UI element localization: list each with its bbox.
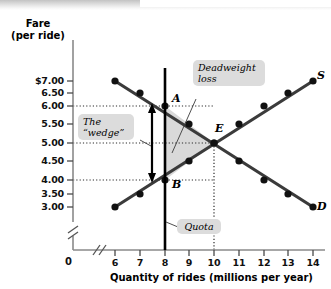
wedge-line1: The [83, 116, 129, 127]
y-tick-label-5-00: 5.00 [14, 137, 64, 148]
x-tick-label-12: 12 [254, 257, 274, 268]
y-tick-label-3-00: 3.00 [14, 201, 64, 212]
x-tick-label-8: 8 [155, 257, 175, 268]
supply-curve-label: S [317, 69, 325, 82]
x-axis-ticks [115, 250, 313, 256]
y-tick-label-6-00: 6.00 [14, 100, 64, 111]
x-tick-label-13: 13 [278, 257, 298, 268]
y-tick-label-7-00: $7.00 [14, 75, 64, 86]
x-tick-label-10: 10 [204, 257, 224, 268]
wedge-callout: The “wedge” [78, 114, 134, 140]
origin-label: 0 [65, 256, 72, 267]
y-axis-title: Fare (per ride) [8, 18, 68, 42]
x-tick-label-11: 11 [229, 257, 249, 268]
y-axis-break-mark-1 [68, 226, 78, 233]
y-axis-title-line1: Fare [8, 18, 68, 30]
point-label-b: B [172, 178, 181, 191]
wedge-line2: “wedge” [83, 127, 129, 138]
deadweight-loss-line1: Deadweight [198, 62, 260, 73]
y-axis-ticks [67, 81, 73, 207]
quota-callout: Quota [177, 219, 221, 234]
x-tick-label-9: 9 [179, 257, 199, 268]
deadweight-loss-callout: Deadweight loss [193, 60, 265, 86]
point-label-e: E [215, 122, 223, 135]
quota-deadweight-loss-chart: Fare (per ride) $7.00 6.50 6.00 5.50 5.0… [0, 0, 331, 289]
y-tick-label-5-50: 5.50 [14, 118, 64, 129]
x-axis-title: Quantity of rides (millions per year) [110, 272, 313, 284]
point-label-a: A [172, 92, 181, 105]
demand-curve-label: D [317, 200, 327, 213]
deadweight-loss-line2: loss [198, 73, 260, 84]
y-tick-label-4-50: 4.50 [14, 155, 64, 166]
y-tick-label-4-00: 4.00 [14, 174, 64, 185]
x-tick-label-6: 6 [105, 257, 125, 268]
y-tick-label-3-50: 3.50 [14, 188, 64, 199]
y-tick-label-6-50: 6.50 [14, 87, 64, 98]
x-tick-label-7: 7 [130, 257, 150, 268]
y-axis-title-line2: (per ride) [8, 30, 68, 42]
x-tick-label-14: 14 [303, 257, 323, 268]
